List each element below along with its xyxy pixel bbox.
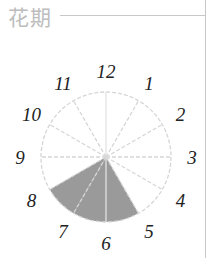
month-label-1: 1 [144,73,154,94]
month-label-6: 6 [101,233,111,254]
dial-spoke [74,101,107,157]
month-label-11: 11 [54,73,72,94]
month-label-3: 3 [186,147,197,168]
month-label-7: 7 [58,221,69,242]
dial-spoke [106,125,162,158]
month-label-10: 10 [22,104,42,125]
dial-spoke [106,101,139,157]
flowering-clock-chart: 121234567891011 [0,0,210,280]
month-label-2: 2 [176,104,186,125]
dial-spoke [50,125,106,158]
month-label-5: 5 [144,221,154,242]
month-label-8: 8 [27,190,37,211]
month-label-9: 9 [15,147,25,168]
month-label-12: 12 [97,61,117,82]
month-label-4: 4 [176,190,186,211]
